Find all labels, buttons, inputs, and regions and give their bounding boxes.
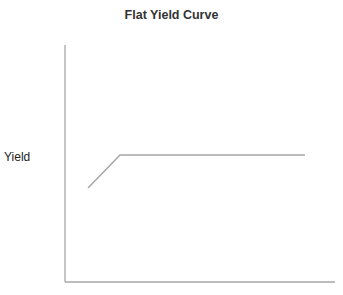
chart-plot-area	[0, 0, 343, 295]
yield-curve-line	[88, 155, 305, 188]
